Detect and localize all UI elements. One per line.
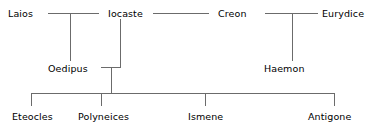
- union-line-laios-iocaste: [48, 13, 99, 14]
- descent-line-to-oedipus: [70, 13, 71, 61]
- node-eteocles: Eteocles: [12, 111, 53, 122]
- family-tree-diagram: Laios Iocaste Creon Eurydice Oedipus Hae…: [0, 0, 371, 131]
- union-line-iocaste-to-oedipus-vertical: [120, 19, 121, 67]
- node-haemon: Haemon: [264, 63, 305, 74]
- descent-line-to-haemon: [292, 13, 293, 61]
- node-antigone: Antigone: [308, 111, 351, 122]
- node-polyneices: Polyneices: [78, 111, 129, 122]
- node-creon: Creon: [218, 8, 247, 19]
- descent-stem-to-children: [111, 67, 112, 93]
- node-laios: Laios: [8, 8, 33, 19]
- child-drop-antigone: [334, 93, 335, 106]
- sibling-line-iocaste-creon: [153, 13, 209, 14]
- children-bar: [31, 93, 335, 94]
- child-drop-eteocles: [31, 93, 32, 106]
- node-oedipus: Oedipus: [48, 63, 88, 74]
- child-drop-polyneices: [101, 93, 102, 106]
- node-iocaste: Iocaste: [108, 8, 143, 19]
- node-ismene: Ismene: [188, 111, 223, 122]
- child-drop-ismene: [205, 93, 206, 106]
- node-eurydice: Eurydice: [322, 8, 364, 19]
